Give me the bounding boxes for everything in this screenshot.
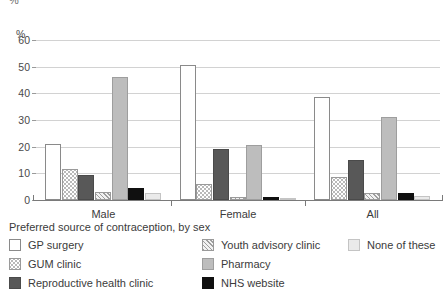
legend-item-pharm: Pharmacy bbox=[202, 258, 271, 270]
legend-label-none: None of these bbox=[367, 239, 436, 251]
bar-female-gp bbox=[180, 65, 196, 200]
y-tick-label-10: 10 bbox=[18, 167, 30, 179]
bar-all-yac bbox=[364, 193, 380, 200]
legend-label-gum: GUM clinic bbox=[28, 258, 81, 270]
legend-item-nhs: NHS website bbox=[202, 277, 285, 289]
legend-label-pharm: Pharmacy bbox=[221, 258, 271, 270]
legend-label-yac: Youth advisory clinic bbox=[221, 239, 320, 251]
legend-item-none: None of these bbox=[348, 239, 436, 251]
bar-all-gp bbox=[314, 97, 330, 200]
legend-swatch-yac-icon bbox=[202, 239, 214, 251]
legend-item-gum: GUM clinic bbox=[9, 258, 81, 270]
legend-item-yac: Youth advisory clinic bbox=[202, 239, 320, 251]
bar-all-pharm bbox=[381, 117, 397, 200]
legend-swatch-none-icon bbox=[348, 239, 360, 251]
legend-label-gp: GP surgery bbox=[28, 239, 83, 251]
clipped-top-glyph: % bbox=[9, 0, 21, 6]
legend-label-nhs: NHS website bbox=[221, 277, 285, 289]
y-tick-label-30: 30 bbox=[18, 114, 30, 126]
x-axis-label-male: Male bbox=[91, 208, 115, 220]
legend: Preferred source of contraception, by se… bbox=[9, 221, 439, 296]
x-axis-line bbox=[33, 200, 443, 201]
bar-all-gum bbox=[331, 177, 347, 200]
legend-item-rhc: Reproductive health clinic bbox=[9, 277, 153, 289]
bar-all-rhc bbox=[348, 160, 364, 200]
legend-swatch-nhs-icon bbox=[202, 277, 214, 289]
bar-group-male bbox=[36, 40, 171, 200]
legend-title: Preferred source of contraception, by se… bbox=[9, 221, 439, 233]
legend-row-1: GUM clinicPharmacy bbox=[9, 258, 439, 277]
bar-male-gp bbox=[45, 144, 61, 200]
plot-area: 0102030405060 MaleFemaleAll bbox=[36, 40, 440, 200]
x-axis-label-female: Female bbox=[220, 208, 257, 220]
bar-male-nhs bbox=[128, 188, 144, 200]
y-tick-label-60: 60 bbox=[18, 34, 30, 46]
x-axis-divider-1 bbox=[171, 200, 172, 206]
bar-chart: % 0102030405060 MaleFemaleAll bbox=[0, 14, 448, 206]
bar-group-female bbox=[171, 40, 306, 200]
y-tick-label-0: 0 bbox=[24, 194, 30, 206]
legend-swatch-rhc-icon bbox=[9, 277, 21, 289]
legend-row-0: GP surgeryYouth advisory clinicNone of t… bbox=[9, 239, 439, 258]
x-axis-cap-0 bbox=[33, 195, 34, 201]
bar-male-gum bbox=[62, 169, 78, 200]
bar-group-all bbox=[305, 40, 440, 200]
legend-swatch-gum-icon bbox=[9, 258, 21, 270]
bar-male-rhc bbox=[78, 175, 94, 200]
y-tick-label-20: 20 bbox=[18, 141, 30, 153]
x-axis-cap-1 bbox=[442, 195, 443, 201]
legend-item-gp: GP surgery bbox=[9, 239, 83, 251]
y-tick-label-40: 40 bbox=[18, 87, 30, 99]
bar-male-none bbox=[145, 193, 161, 200]
bar-male-yac bbox=[95, 192, 111, 200]
legend-swatch-gp-icon bbox=[9, 239, 21, 251]
legend-swatch-pharm-icon bbox=[202, 258, 214, 270]
bar-female-rhc bbox=[213, 149, 229, 200]
x-axis-label-all: All bbox=[367, 208, 379, 220]
bar-male-pharm bbox=[112, 77, 128, 200]
y-tick-label-50: 50 bbox=[18, 61, 30, 73]
bar-female-gum bbox=[196, 184, 212, 200]
legend-rows: GP surgeryYouth advisory clinicNone of t… bbox=[9, 239, 439, 296]
bar-all-nhs bbox=[398, 193, 414, 200]
bar-female-pharm bbox=[246, 145, 262, 200]
legend-label-rhc: Reproductive health clinic bbox=[28, 277, 153, 289]
legend-row-2: Reproductive health clinicNHS website bbox=[9, 277, 439, 296]
x-axis-divider-2 bbox=[305, 200, 306, 206]
